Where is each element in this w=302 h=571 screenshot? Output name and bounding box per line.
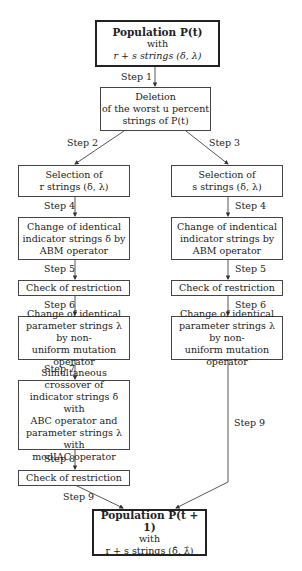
step-6-left-label: Step 6 bbox=[44, 299, 75, 310]
step-5-left-label: Step 5 bbox=[44, 263, 75, 274]
right-abm-line3: ABM operator bbox=[193, 245, 261, 257]
left-selection-line2: r strings (δ, λ) bbox=[39, 181, 108, 193]
left-crossover-line2: indicator strings δ with bbox=[19, 391, 129, 415]
step-5-right-label: Step 5 bbox=[235, 263, 266, 274]
step-4-left-label: Step 4 bbox=[44, 200, 75, 211]
start-with: with bbox=[147, 38, 168, 50]
left-mutation-box: Change of identical parameter strings λ … bbox=[18, 316, 130, 360]
left-check2-label: Check of restriction bbox=[26, 472, 122, 484]
end-population-box: Population P(t + 1) with r + s strings (… bbox=[92, 509, 207, 556]
step-2-label: Step 2 bbox=[67, 137, 98, 148]
step-1-label: Step 1 bbox=[121, 71, 152, 82]
left-abm-line2: indicator strings δ by bbox=[23, 233, 126, 245]
left-crossover-line3: ABC operator and bbox=[31, 415, 118, 427]
deletion-box: Deletion of the worst u percent strings … bbox=[100, 87, 211, 131]
start-strings: r + s strings (δ, λ) bbox=[114, 50, 202, 62]
step-4-right-label: Step 4 bbox=[235, 200, 266, 211]
right-check-restriction-box: Check of restriction bbox=[171, 280, 283, 296]
right-abm-box: Change of indentical indicator strings b… bbox=[171, 217, 283, 260]
start-title: Population P(t) bbox=[112, 26, 202, 38]
step-9-right-label: Step 9 bbox=[234, 417, 265, 428]
right-abm-line2: indicator strings by bbox=[180, 233, 274, 245]
left-mutation-line2: parameter strings λ by non- bbox=[19, 320, 129, 344]
step-8-label: Step 8 bbox=[44, 453, 75, 464]
right-mutation-box: Change of identical parameter strings λ … bbox=[171, 316, 283, 360]
left-abm-line1: Change of identical bbox=[27, 221, 121, 233]
end-title: Population P(t + 1) bbox=[94, 509, 205, 533]
left-check-restriction-box-2: Check of restriction bbox=[18, 470, 130, 486]
right-mutation-line2: parameter strings λ by non- bbox=[172, 320, 282, 344]
right-check1-label: Check of restriction bbox=[179, 282, 275, 294]
deletion-line1: Deletion bbox=[135, 91, 176, 103]
left-crossover-box: Simultaneous crossover of indicator stri… bbox=[18, 380, 130, 450]
right-abm-line1: Change of indentical bbox=[177, 221, 277, 233]
step-3-label: Step 3 bbox=[209, 137, 240, 148]
step-7-label: Step 7 bbox=[44, 363, 75, 374]
left-selection-box: Selection of r strings (δ, λ) bbox=[18, 165, 130, 197]
right-selection-line1: Selection of bbox=[198, 169, 255, 181]
right-selection-line2: s strings (δ, λ) bbox=[192, 181, 261, 193]
end-with: with bbox=[139, 533, 160, 545]
left-abm-box: Change of identical indicator strings δ … bbox=[18, 217, 130, 260]
step-9-left-label: Step 9 bbox=[63, 491, 94, 502]
left-check1-label: Check of restriction bbox=[26, 282, 122, 294]
step-6-right-label: Step 6 bbox=[235, 299, 266, 310]
right-selection-box: Selection of s strings (δ, λ) bbox=[171, 165, 283, 197]
deletion-line2: of the worst u percent bbox=[102, 103, 209, 115]
end-strings: r + s strings (δ̂, λ̂) bbox=[106, 545, 194, 557]
left-crossover-line4: parameter strings λ with bbox=[19, 427, 129, 451]
start-population-box: Population P(t) with r + s strings (δ, λ… bbox=[95, 20, 220, 67]
left-check-restriction-box-1: Check of restriction bbox=[18, 280, 130, 296]
left-selection-line1: Selection of bbox=[45, 169, 102, 181]
deletion-line3: strings of P(t) bbox=[122, 115, 188, 127]
left-abm-line3: ABM operator bbox=[40, 245, 108, 257]
right-mutation-line3: uniform mutation operator bbox=[172, 344, 282, 368]
